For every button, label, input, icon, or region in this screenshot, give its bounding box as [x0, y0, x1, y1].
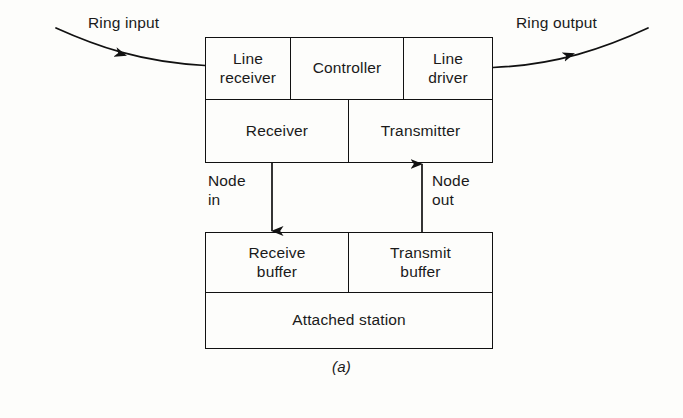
ring-output-label: Ring output: [516, 14, 597, 33]
ring-input-connector: [56, 28, 205, 66]
block-line-driver: Line driver: [403, 37, 493, 100]
block-receiver: Receiver: [205, 99, 349, 163]
block-attached-station-label: Attached station: [292, 311, 406, 330]
block-transmitter: Transmitter: [348, 99, 493, 163]
node-out-label: Node out: [432, 172, 470, 210]
ring-input-label: Ring input: [88, 14, 159, 33]
block-controller-label: Controller: [313, 59, 382, 78]
block-transmit-buffer-label: Transmit buffer: [390, 244, 451, 282]
block-controller: Controller: [290, 37, 404, 100]
figure-caption: (a): [0, 358, 683, 375]
block-transmit-buffer: Transmit buffer: [348, 232, 493, 293]
block-receive-buffer: Receive buffer: [205, 232, 349, 293]
block-line-receiver-label: Line receiver: [220, 50, 276, 88]
block-line-receiver: Line receiver: [205, 37, 291, 100]
block-attached-station: Attached station: [205, 292, 493, 349]
block-receive-buffer-label: Receive buffer: [248, 244, 305, 282]
block-transmitter-label: Transmitter: [381, 122, 460, 141]
block-line-driver-label: Line driver: [428, 50, 468, 88]
block-receiver-label: Receiver: [246, 122, 308, 141]
ring-node-block-diagram: Ring input Ring output Line receiver Con…: [0, 0, 683, 418]
node-in-label: Node in: [208, 172, 246, 210]
ring-output-connector: [493, 28, 648, 68]
